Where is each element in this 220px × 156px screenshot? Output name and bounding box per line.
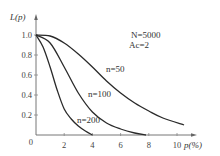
x-tick-label: 8 — [147, 140, 151, 150]
y-tick-label: 0.4 — [21, 90, 32, 100]
y-axis-arrow-icon — [34, 14, 38, 20]
y-tick-label: 0.6 — [21, 70, 32, 80]
series-label-n100: n=100 — [88, 89, 112, 99]
oc-curve-chart: 00.20.40.60.81.0 246810 L(p) p(%) n=50 n… — [0, 0, 220, 156]
y-tick-label: 0 — [29, 137, 33, 147]
x-tick-label: 10 — [173, 140, 182, 150]
x-ticks: 246810 — [62, 133, 181, 150]
x-tick-label: 4 — [90, 140, 95, 150]
x-tick-label: 6 — [118, 140, 122, 150]
y-axis-title: L(p) — [9, 12, 26, 22]
series-label-n200: n=200 — [77, 115, 101, 125]
y-tick-label: 0.2 — [21, 110, 32, 120]
axes — [34, 14, 197, 137]
annotation-acceptance-number: Ac=2 — [129, 40, 149, 50]
annotation-lot-size: N=5000 — [131, 30, 161, 40]
y-tick-label: 1.0 — [21, 30, 32, 40]
series-label-n50: n=50 — [106, 64, 125, 74]
curve-n50 — [36, 35, 184, 125]
curves — [36, 35, 184, 135]
x-axis-arrow-icon — [191, 133, 197, 137]
x-axis-title: p(%) — [183, 140, 202, 150]
x-tick-label: 2 — [62, 140, 66, 150]
y-ticks: 00.20.40.60.81.0 — [21, 30, 38, 147]
y-tick-label: 0.8 — [21, 50, 32, 60]
